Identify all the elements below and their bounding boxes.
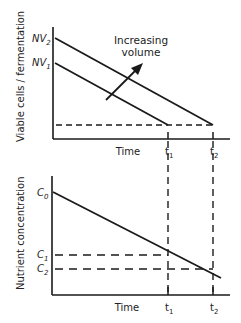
c2-label: C2 [37,263,49,277]
top-t2-label: t2 [210,146,218,160]
diagram-canvas: Increasing volume NV2 NV1 Time t1 t2 Via… [0,0,241,323]
c0-label: C0 [37,187,49,201]
bottom-y-axis-label: Nutrient concentration [15,177,26,290]
top-chart: Increasing volume NV2 NV1 Time t1 t2 Via… [15,11,230,160]
annotation-volume: volume [122,46,161,58]
bottom-x-axis-label: Time [114,302,139,313]
c1-label: C1 [37,249,48,263]
top-t1-label: t1 [165,146,173,160]
bottom-chart: C0 C1 C2 Time t1 t2 Nutrient concentrati… [15,176,230,316]
nv1-label: NV1 [32,57,51,71]
bottom-t2-label: t2 [210,302,218,316]
nutrient-line [53,192,221,278]
nv2-label: NV2 [32,33,51,47]
bottom-t1-label: t1 [165,302,173,316]
annotation-increasing: Increasing [114,34,168,46]
top-y-axis-label: Viable cells / fermentation [15,11,26,142]
top-x-axis-label: Time [115,146,140,157]
